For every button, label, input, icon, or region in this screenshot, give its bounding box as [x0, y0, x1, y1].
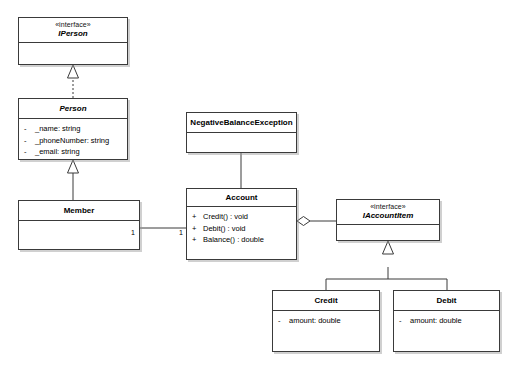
class-header-credit: Credit — [273, 291, 379, 310]
attributes-compartment-credit: - amount: double — [273, 310, 379, 331]
stereotype-label: «interface» — [21, 21, 125, 29]
class-header-negative-balance-exception: NegativeBalanceException — [187, 113, 296, 132]
attribute-signature: _email: string — [35, 146, 123, 158]
attribute-signature: amount: double — [410, 315, 495, 327]
class-name-label: Person — [21, 104, 125, 113]
attributes-compartment-iperson — [19, 42, 127, 61]
stereotype-label: «interface» — [339, 203, 437, 211]
operation-signature: Balance() : double — [203, 234, 292, 246]
attribute-signature: _phoneNumber: string — [35, 135, 123, 147]
class-header-account: Account — [187, 189, 296, 206]
attribute-row: - amount: double — [278, 315, 375, 327]
class-box-negative-balance-exception[interactable]: NegativeBalanceException — [186, 112, 297, 153]
visibility-marker: + — [192, 223, 203, 235]
class-header-person: Person — [19, 99, 127, 118]
attributes-compartment-iaccountitem — [337, 224, 439, 239]
multiplicity-account-end: 1 — [179, 229, 183, 236]
attributes-compartment-member — [19, 220, 139, 248]
visibility-marker: - — [24, 135, 35, 147]
attribute-row: - _email: string — [24, 146, 123, 158]
class-name-label: Debit — [396, 296, 497, 305]
operation-row: + Credit() : void — [192, 211, 292, 223]
attribute-signature: _name: string — [35, 123, 123, 135]
class-name-label: Credit — [275, 296, 377, 305]
edge-aggregation-account-iaccountitem — [297, 217, 336, 226]
multiplicity-member-end: 1 — [131, 229, 135, 236]
edge-generalization-credit-debit-iaccountitem — [326, 241, 447, 290]
attribute-row: - _name: string — [24, 123, 123, 135]
attributes-compartment-debit: - amount: double — [394, 310, 499, 331]
class-box-account[interactable]: Account + Credit() : void + Debit() : vo… — [186, 188, 297, 260]
class-header-debit: Debit — [394, 291, 499, 310]
visibility-marker: + — [192, 211, 203, 223]
hollow-triangle-icon — [68, 65, 79, 78]
class-box-iperson[interactable]: «interface» IPerson — [18, 17, 128, 65]
class-header-iaccountitem: «interface» IAccountItem — [337, 200, 439, 224]
class-box-member[interactable]: Member — [18, 200, 140, 250]
operation-row: + Balance() : double — [192, 234, 292, 246]
operations-compartment-account: + Credit() : void + Debit() : void + Bal… — [187, 206, 296, 250]
visibility-marker: - — [24, 146, 35, 158]
class-name-label: IPerson — [21, 29, 125, 38]
class-box-credit[interactable]: Credit - amount: double — [272, 290, 380, 352]
class-name-label: IAccountItem — [339, 211, 437, 220]
attribute-signature: amount: double — [289, 315, 375, 327]
visibility-marker: - — [399, 315, 410, 327]
hollow-diamond-icon — [297, 217, 310, 226]
class-header-iperson: «interface» IPerson — [19, 18, 127, 42]
class-box-debit[interactable]: Debit - amount: double — [393, 290, 500, 352]
class-name-label: Member — [21, 206, 137, 215]
visibility-marker: - — [278, 315, 289, 327]
attribute-row: - amount: double — [399, 315, 495, 327]
class-box-person[interactable]: Person - _name: string - _phoneNumber: s… — [18, 98, 128, 160]
edge-realization-person-iperson — [68, 65, 79, 98]
operation-signature: Debit() : void — [203, 223, 292, 235]
uml-diagram-canvas: 1 1 «interface» IPerson Person - _name: … — [0, 0, 518, 365]
attributes-compartment-negative-balance-exception — [187, 132, 296, 152]
operation-row: + Debit() : void — [192, 223, 292, 235]
hollow-triangle-icon — [383, 241, 394, 254]
class-box-iaccountitem[interactable]: «interface» IAccountItem — [336, 199, 440, 241]
operation-signature: Credit() : void — [203, 211, 292, 223]
visibility-marker: + — [192, 234, 203, 246]
class-name-label: Account — [189, 193, 294, 202]
edge-generalization-member-person — [68, 160, 79, 200]
attributes-compartment-person: - _name: string - _phoneNumber: string -… — [19, 118, 127, 162]
attribute-row: - _phoneNumber: string — [24, 135, 123, 147]
class-name-label: NegativeBalanceException — [189, 118, 294, 127]
class-header-member: Member — [19, 201, 139, 220]
visibility-marker: - — [24, 123, 35, 135]
